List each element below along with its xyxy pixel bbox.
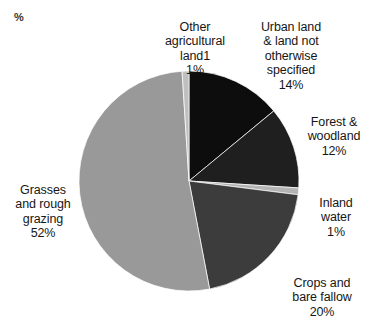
slice-value-crops-bare-fallow: 20% [274, 305, 370, 318]
slice-label-text-forest-woodland: Forest & woodland [308, 115, 361, 144]
slice-value-forest-woodland: 12% [296, 144, 372, 159]
slice-label-text-other-agricultural-land: Other agricultural land1 [165, 20, 225, 63]
slice-label-text-urban-land: Urban land & land not otherwise specifie… [261, 20, 321, 78]
slice-label-text-grasses-rough-grazing: Grasses and rough grazing [15, 183, 70, 226]
slice-value-urban-land: 14% [235, 78, 347, 93]
slice-label-inland-water: Inland water 1% [303, 181, 369, 254]
slice-label-text-crops-bare-fallow: Crops and bare fallow [292, 276, 351, 305]
slice-label-text-inland-water: Inland water [319, 196, 352, 225]
slice-value-grasses-rough-grazing: 52% [2, 226, 84, 241]
slice-label-crops-bare-fallow: Crops and bare fallow 20% [274, 261, 370, 318]
slice-label-grasses-rough-grazing: Grasses and rough grazing 52% [2, 168, 84, 255]
slice-label-urban-land: Urban land & land not otherwise specifie… [235, 5, 347, 107]
slice-label-forest-woodland: Forest & woodland 12% [296, 100, 372, 173]
slice-value-inland-water: 1% [303, 225, 369, 240]
pie-chart-figure: % Other agricultural land1 1% Urban land… [0, 0, 372, 318]
